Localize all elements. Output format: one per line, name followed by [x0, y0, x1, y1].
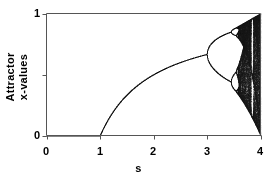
x-tick-label-0: 0	[36, 146, 56, 157]
x-tick-label-1: 1	[90, 146, 110, 157]
y-axis-title-line-2: x-values	[17, 12, 30, 142]
y-axis-title: Attractor x-values	[4, 12, 38, 142]
x-tick-label-3: 3	[197, 146, 217, 157]
x-axis-title: s	[0, 162, 277, 174]
bifurcation-diagram-figure: 1 0 0 1 2 3 4 s Attractor x-values	[0, 0, 277, 182]
x-tick-label-4: 4	[250, 146, 270, 157]
x-tick-label-2: 2	[143, 146, 163, 157]
y-axis-title-line-1: Attractor	[4, 12, 17, 142]
